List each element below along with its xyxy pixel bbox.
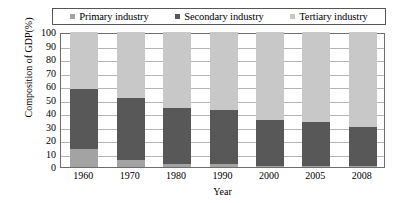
legend-entry-secondary-industry[interactable]: Secondary industry [175, 11, 264, 22]
legend-label: Primary industry [79, 11, 148, 22]
x-axis-tick-label: 2000 [246, 170, 292, 181]
y-axis-tick-label: 90 [46, 42, 56, 52]
bar-group[interactable] [349, 32, 377, 167]
bar-segment[interactable] [117, 160, 145, 167]
bar-segment[interactable] [256, 120, 284, 166]
bar-segment[interactable] [117, 32, 145, 98]
bar-segment[interactable] [163, 164, 191, 167]
x-axis-tick-labels: 1960197019801990200020052008 [60, 170, 385, 184]
plot-area [60, 33, 385, 168]
bar-segment[interactable] [302, 122, 330, 165]
x-axis-tick-label: 1980 [153, 170, 199, 181]
bar-segment[interactable] [163, 32, 191, 108]
chart-legend: Primary industry Secondary industry Tert… [52, 8, 386, 25]
bar-segment[interactable] [70, 149, 98, 167]
stacked-bar-chart: Primary industry Secondary industry Tert… [0, 0, 394, 203]
x-axis-tick-label: 1960 [60, 170, 106, 181]
bar-segment[interactable] [70, 32, 98, 89]
square-swatch-icon [70, 14, 75, 19]
y-axis-tick-labels: 0102030405060708090100 [30, 33, 56, 168]
y-axis-tick-label: 100 [41, 28, 56, 38]
bar-group[interactable] [256, 32, 284, 167]
bar-segment[interactable] [349, 127, 377, 166]
square-swatch-icon [175, 14, 180, 19]
bar-group[interactable] [70, 32, 98, 167]
y-axis-tick-label: 10 [46, 150, 56, 160]
legend-entry-primary-industry[interactable]: Primary industry [70, 11, 148, 22]
x-axis-tick-label: 2008 [339, 170, 385, 181]
bar-segment[interactable] [302, 32, 330, 122]
y-axis-tick-label: 40 [46, 109, 56, 119]
bar-segment[interactable] [210, 164, 238, 167]
bar-segment[interactable] [256, 32, 284, 120]
bar-segment[interactable] [117, 98, 145, 160]
bar-group[interactable] [163, 32, 191, 167]
bar-segment[interactable] [302, 166, 330, 167]
bar-segment[interactable] [349, 32, 377, 127]
y-axis-tick-label: 70 [46, 69, 56, 79]
legend-label: Secondary industry [184, 11, 264, 22]
bar-segment[interactable] [70, 89, 98, 150]
y-axis-tick-label: 20 [46, 136, 56, 146]
bar-group[interactable] [117, 32, 145, 167]
bar-segment[interactable] [210, 110, 238, 164]
bar-group[interactable] [210, 32, 238, 167]
y-axis-tick-label: 0 [51, 163, 56, 173]
y-axis-tick-label: 30 [46, 123, 56, 133]
x-axis-tick-label: 2005 [292, 170, 338, 181]
bar-segment[interactable] [163, 108, 191, 165]
y-axis-tick-label: 80 [46, 55, 56, 65]
bar-segment[interactable] [349, 166, 377, 167]
y-axis-tick-label: 50 [46, 96, 56, 106]
x-axis-title: Year [60, 186, 385, 197]
x-axis-tick-label: 1970 [107, 170, 153, 181]
legend-entry-tertiary-industry[interactable]: Tertiary industry [290, 11, 367, 22]
y-axis-tick-label: 60 [46, 82, 56, 92]
bar-segment[interactable] [256, 166, 284, 167]
bar-segment[interactable] [210, 32, 238, 110]
x-axis-tick-label: 1990 [200, 170, 246, 181]
legend-label: Tertiary industry [299, 11, 367, 22]
square-swatch-icon [290, 14, 295, 19]
bar-group[interactable] [302, 32, 330, 167]
bars-layer [61, 34, 384, 167]
